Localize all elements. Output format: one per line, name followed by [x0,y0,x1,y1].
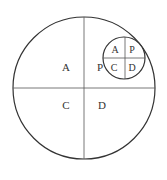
pdca-diagram: A P C D A P C D [0,0,167,180]
large-label-d: D [98,99,106,111]
small-label-p: P [129,44,135,55]
large-label-a: A [62,61,70,73]
large-label-p: P [97,61,103,73]
small-label-d: D [128,62,135,73]
small-label-a: A [111,44,119,55]
small-label-c: C [111,62,118,73]
large-label-c: C [62,99,69,111]
